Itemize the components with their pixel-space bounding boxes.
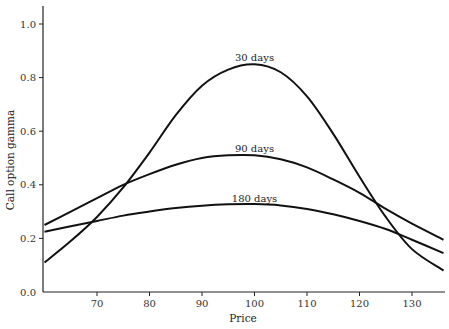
y-tick-label: 0.4 [20, 179, 36, 190]
series-label: 180 days [232, 193, 277, 204]
series-labels: 30 days90 days180 days [232, 52, 277, 204]
y-tick-label: 1.0 [20, 19, 36, 30]
series-label: 30 days [235, 52, 274, 63]
y-tick-label: 0.0 [20, 287, 36, 298]
x-tick-label: 90 [196, 298, 209, 309]
x-tick-label: 110 [297, 298, 316, 309]
axes: 0.00.20.40.60.81.0708090100110120130 [20, 6, 445, 309]
curves [45, 64, 444, 270]
y-axis-title: Call option gamma [4, 110, 16, 211]
x-tick-label: 100 [245, 298, 264, 309]
x-axis-title: Price [229, 312, 257, 324]
curve-30-days [45, 64, 444, 270]
x-tick-label: 130 [402, 298, 421, 309]
series-label: 90 days [235, 143, 274, 154]
x-tick-label: 120 [350, 298, 369, 309]
x-tick-label: 80 [143, 298, 156, 309]
y-tick-label: 0.2 [20, 233, 36, 244]
x-tick-label: 70 [91, 298, 104, 309]
y-tick-label: 0.6 [20, 126, 36, 137]
curve-180-days [45, 204, 444, 253]
gamma-chart: 0.00.20.40.60.81.0708090100110120130 30 … [0, 0, 449, 329]
y-tick-label: 0.8 [20, 72, 36, 83]
